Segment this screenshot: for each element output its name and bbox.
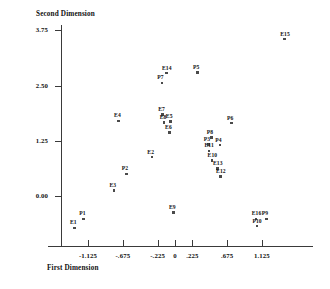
data-point-label: P4 [215, 137, 221, 143]
data-point [117, 120, 120, 123]
data-point-label: P6 [227, 115, 233, 121]
data-point-label: P1 [79, 210, 85, 216]
x-tick-label: .675 [209, 252, 245, 259]
y-tick-label: 3.75 [22, 26, 48, 33]
y-tick-mark [55, 30, 62, 31]
data-point [113, 189, 116, 192]
data-point-label: E10 [208, 152, 218, 158]
data-point-label: E9 [169, 204, 176, 210]
data-point-label: P3 [204, 136, 210, 142]
data-point-label: E2 [147, 149, 154, 155]
x-tick-label: -.675 [105, 252, 141, 259]
data-point [283, 38, 286, 41]
y-tick-label: 2.50 [22, 82, 48, 89]
data-point-label: P5 [193, 64, 199, 70]
data-point-label: P10 [252, 218, 261, 224]
x-tick-mark [262, 240, 263, 247]
data-point [256, 225, 259, 228]
data-point-label: P8 [207, 129, 213, 135]
data-point [168, 131, 171, 134]
data-point-label: E13 [213, 160, 223, 166]
data-point-label: E5 [166, 113, 173, 119]
data-point-label: E7 [158, 106, 165, 112]
data-point-label: E11 [205, 142, 214, 148]
data-point [219, 175, 222, 178]
x-tick-label: 1.125 [244, 252, 280, 259]
y-axis-title: Second Dimension [36, 10, 95, 18]
y-tick-label: 0.00 [22, 192, 48, 199]
data-point [125, 173, 128, 176]
y-axis-line [61, 25, 62, 247]
x-tick-label: -1.125 [70, 252, 106, 259]
data-point [230, 122, 233, 125]
data-point-label: E12 [216, 168, 226, 174]
data-point [196, 71, 199, 74]
y-tick-mark [55, 141, 62, 142]
data-point-label: E4 [114, 112, 121, 118]
x-tick-mark [227, 240, 228, 247]
data-point-label: E14 [162, 65, 172, 71]
y-tick-mark [55, 196, 62, 197]
data-point-label: E1 [70, 219, 77, 225]
data-point-label: E16 [252, 210, 262, 216]
data-point-label: P9 [262, 210, 268, 216]
x-tick-label: .225 [174, 252, 210, 259]
data-point-label: E3 [109, 182, 116, 188]
data-point-label: P2 [122, 165, 128, 171]
data-point [172, 211, 175, 214]
data-point [169, 120, 172, 123]
data-point-label: E15 [280, 31, 290, 37]
x-axis-title: First Dimension [47, 264, 99, 272]
data-point-label: P7 [157, 74, 163, 80]
y-tick-mark [55, 86, 62, 87]
x-tick-mark [158, 240, 159, 247]
scatter-plot: Second Dimension First Dimension 3.752.5… [0, 0, 330, 289]
data-point [165, 72, 168, 75]
x-tick-mark [123, 240, 124, 247]
x-tick-mark [175, 240, 176, 247]
data-point [265, 218, 268, 221]
data-point [210, 136, 213, 139]
data-point-label: E6 [165, 124, 172, 130]
data-point [73, 227, 76, 230]
x-tick-mark [88, 240, 89, 247]
y-tick-label: 1.25 [22, 137, 48, 144]
data-point [219, 144, 222, 147]
x-tick-mark [192, 240, 193, 247]
data-point [151, 156, 154, 159]
data-point [82, 218, 85, 221]
data-point [161, 82, 164, 85]
